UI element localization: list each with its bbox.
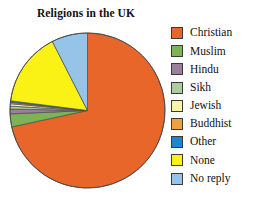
legend-item-label: Buddhist [190, 118, 232, 130]
pie-chart [9, 32, 166, 189]
legend-item-label: Christian [190, 27, 232, 39]
legend-item-jewish[interactable]: Jewish [171, 97, 257, 115]
legend-swatch-icon [171, 154, 183, 166]
pie-chart-svg [9, 32, 166, 189]
legend-item-label: Sikh [190, 82, 211, 94]
legend-swatch-icon [171, 100, 183, 112]
legend-item-sikh[interactable]: Sikh [171, 79, 257, 97]
legend-swatch-icon [171, 45, 183, 57]
legend-item-hindu[interactable]: Hindu [171, 60, 257, 78]
legend-swatch-icon [171, 82, 183, 94]
chart-legend: ChristianMuslimHinduSikhJewishBuddhistOt… [171, 24, 257, 188]
legend-item-label: Muslim [190, 46, 226, 58]
legend-item-no-reply[interactable]: No reply [171, 170, 257, 188]
legend-item-none[interactable]: None [171, 151, 257, 169]
legend-item-christian[interactable]: Christian [171, 24, 257, 42]
legend-swatch-icon [171, 136, 183, 148]
legend-item-label: None [190, 155, 215, 167]
chart-canvas: Religions in the UK ChristianMuslimHindu… [0, 0, 257, 199]
legend-item-muslim[interactable]: Muslim [171, 42, 257, 60]
legend-item-label: No reply [190, 173, 231, 185]
legend-item-other[interactable]: Other [171, 133, 257, 151]
legend-swatch-icon [171, 173, 183, 185]
legend-item-label: Hindu [190, 64, 219, 76]
legend-item-buddhist[interactable]: Buddhist [171, 115, 257, 133]
legend-swatch-icon [171, 27, 183, 39]
pie-slice-group [10, 33, 165, 188]
legend-item-label: Jewish [190, 100, 221, 112]
legend-swatch-icon [171, 118, 183, 130]
legend-swatch-icon [171, 63, 183, 75]
legend-item-label: Other [190, 136, 216, 148]
page-title: Religions in the UK [0, 7, 172, 19]
